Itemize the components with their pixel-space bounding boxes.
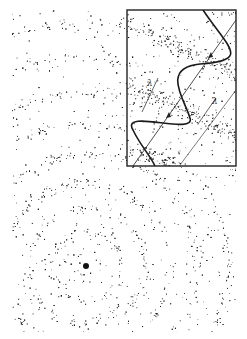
wavelength-label: λ <box>211 96 218 106</box>
magnified-inset: λ λ <box>127 10 236 167</box>
wave-diagram: λ λ <box>0 0 247 339</box>
wave-illustration: λ λ <box>0 0 247 339</box>
wavelength-label: λ <box>146 78 153 88</box>
point-source <box>83 263 89 269</box>
